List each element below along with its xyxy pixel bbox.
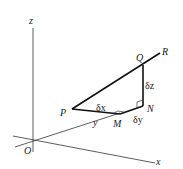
- label-dz: δz: [145, 80, 155, 91]
- x-axis: [13, 136, 155, 163]
- label-dx: δx: [96, 102, 106, 113]
- label-R: R: [161, 46, 168, 57]
- label-Q: Q: [136, 52, 144, 63]
- label-z: z: [28, 15, 33, 26]
- label-N: N: [146, 103, 155, 114]
- diagram-svg: z x y O P Q R M N δx δy δz: [0, 0, 183, 169]
- label-dy: δy: [133, 114, 143, 125]
- label-P: P: [59, 107, 66, 118]
- label-M: M: [112, 118, 122, 129]
- segment-MN: [120, 106, 143, 114]
- diagram-canvas: z x y O P Q R M N δx δy δz: [0, 0, 183, 169]
- y-axis: [15, 113, 120, 147]
- label-O: O: [24, 145, 31, 156]
- label-x: x: [155, 156, 161, 167]
- label-y: y: [92, 117, 98, 128]
